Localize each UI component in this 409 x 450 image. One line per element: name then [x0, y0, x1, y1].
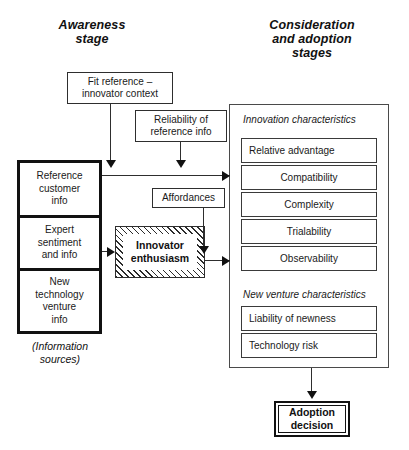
- innovation-characteristics-heading: Innovation characteristics: [243, 114, 389, 126]
- arrowhead-fit-reference-down: [106, 160, 116, 168]
- reference-customer-line1: Reference: [36, 170, 82, 183]
- new-venture-characteristics-heading: New venture characteristics: [243, 289, 389, 301]
- panel-item-observability: Observability: [241, 246, 377, 271]
- panel-item-complexity-label: Complexity: [284, 199, 333, 211]
- awareness-stage-title-line1: Awareness: [22, 18, 162, 32]
- source-box-reference-customer-info: Reference customer info: [20, 163, 99, 218]
- fit-reference-line1: Fit reference –: [82, 76, 158, 88]
- diagram-canvas: Awareness stage Consideration and adopti…: [0, 0, 409, 450]
- arrowhead-affordances-down: [199, 246, 209, 254]
- adoption-decision-box: Adoption decision: [274, 401, 350, 437]
- awareness-stage-title: Awareness stage: [22, 18, 162, 46]
- innovator-enthusiasm-line2: enthusiasm: [131, 252, 189, 265]
- innovation-characteristics-heading-text: Innovation characteristics: [243, 114, 356, 125]
- arrowhead-innovator-to-panel: [222, 256, 230, 266]
- new-venture-characteristics-heading-text: New venture characteristics: [243, 289, 366, 300]
- connector-fit-reference-down: [110, 104, 111, 162]
- connector-affordances-down: [203, 208, 204, 249]
- new-tech-line1: New: [35, 276, 83, 289]
- panel-item-observability-label: Observability: [280, 253, 338, 265]
- affordances-label: Affordances: [162, 192, 215, 204]
- panel-item-relative-advantage: Relative advantage: [241, 138, 377, 163]
- information-sources-caption-line2: sources): [9, 353, 111, 366]
- fit-reference-box: Fit reference – innovator context: [67, 72, 173, 104]
- consideration-title-line1: Consideration: [232, 18, 392, 32]
- consideration-title-line3: stages: [232, 46, 392, 60]
- innovator-enthusiasm-line1: Innovator: [131, 239, 189, 252]
- connector-sources-to-panel: [102, 175, 230, 176]
- new-tech-line2: technology: [35, 289, 83, 302]
- reliability-line2: reference info: [150, 126, 211, 138]
- arrowhead-sources-to-innovator: [107, 247, 115, 257]
- reliability-of-reference-info-box: Reliability of reference info: [135, 110, 227, 142]
- panel-item-technology-risk-label: Technology risk: [249, 340, 318, 352]
- source-box-expert-sentiment-and-info: Expert sentiment and info: [20, 218, 99, 271]
- connector-reliability-down: [180, 142, 181, 162]
- adoption-decision-line1: Adoption: [289, 406, 335, 419]
- connector-panel-to-adoption: [311, 368, 312, 393]
- source-box-new-technology-venture-info: New technology venture info: [20, 271, 99, 331]
- expert-line2: sentiment: [38, 237, 81, 250]
- panel-item-technology-risk: Technology risk: [241, 333, 377, 358]
- panel-item-trialability: Trialability: [241, 219, 377, 244]
- fit-reference-line2: innovator context: [82, 88, 158, 100]
- new-tech-line4: info: [35, 314, 83, 327]
- panel-item-compatibility: Compatibility: [241, 165, 377, 190]
- new-tech-line3: venture: [35, 301, 83, 314]
- innovator-enthusiasm-box: Innovator enthusiasm: [115, 226, 205, 278]
- panel-item-complexity: Complexity: [241, 192, 377, 217]
- arrowhead-panel-to-adoption: [307, 391, 317, 399]
- information-sources-caption-line1: (Information: [9, 340, 111, 353]
- consideration-title-line2: and adoption: [232, 32, 392, 46]
- panel-item-compatibility-label: Compatibility: [280, 172, 337, 184]
- reliability-line1: Reliability of: [150, 114, 211, 126]
- panel-item-liability-of-newness: Liability of newness: [241, 306, 377, 331]
- arrowhead-reliability-down: [176, 160, 186, 168]
- panel-item-relative-advantage-label: Relative advantage: [249, 145, 335, 157]
- panel-item-trialability-label: Trialability: [287, 226, 332, 238]
- information-sources-caption: (Information sources): [9, 340, 111, 366]
- panel-item-liability-of-newness-label: Liability of newness: [249, 313, 336, 325]
- expert-line3: and info: [38, 249, 81, 262]
- reference-customer-line2: customer: [36, 183, 82, 196]
- reference-customer-line3: info: [36, 195, 82, 208]
- expert-line1: Expert: [38, 224, 81, 237]
- information-sources-stack: Reference customer info Expert sentiment…: [17, 160, 102, 334]
- affordances-box: Affordances: [152, 188, 225, 208]
- arrowhead-sources-to-panel: [222, 171, 230, 181]
- consideration-adoption-stages-title: Consideration and adoption stages: [232, 18, 392, 60]
- adoption-decision-line2: decision: [289, 419, 335, 432]
- awareness-stage-title-line2: stage: [22, 32, 162, 46]
